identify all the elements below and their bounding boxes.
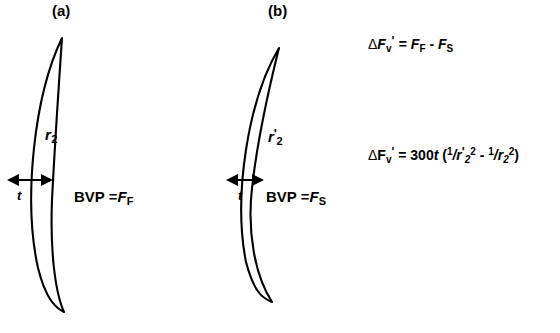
bvp-label-b: BVP =FS	[266, 188, 326, 207]
radius-symbol-a: r	[45, 126, 51, 143]
eq2-delta: Δ	[368, 147, 377, 163]
radius-symbol-b: r	[268, 128, 274, 145]
thickness-label-b: t	[238, 188, 242, 203]
bvp-text-a: BVP =	[74, 188, 118, 205]
panel-title-a: (a)	[52, 2, 70, 19]
panel-title-b: (b)	[268, 2, 287, 19]
radius-label-a: r2	[45, 126, 57, 145]
equation-delta-fv-definition: ΔFv' = FF - FS	[368, 34, 453, 54]
thickness-label-a: t	[17, 188, 21, 203]
bvp-subscript-a: F	[127, 195, 134, 207]
lens-outline-b	[241, 48, 279, 302]
eq1-delta: Δ	[368, 36, 377, 52]
lens-outline-a	[31, 38, 64, 312]
eq1-f: F	[377, 36, 386, 52]
radius-subscript-a: 2	[51, 133, 57, 145]
bvp-symbol-b: F	[310, 188, 319, 205]
figure-canvas: (a) (b) r2 t BVP =FF r'2 t BVP =FS ΔFv' …	[0, 0, 560, 333]
radius-subscript-b: 2	[276, 135, 282, 147]
eq2-coefficient: 300	[410, 147, 433, 163]
equation-delta-fv-formula: ΔFv' = 300t (1/r'22 - 1/r22)	[368, 145, 519, 165]
eq1-equals: =	[399, 36, 407, 52]
bvp-text-b: BVP =	[266, 188, 310, 205]
eq1-term2: F	[438, 36, 447, 52]
bvp-subscript-b: S	[319, 195, 326, 207]
thickness-arrow-a	[7, 174, 53, 186]
eq2-close-paren: )	[514, 147, 519, 163]
eq1-term2-sub: S	[447, 43, 454, 54]
thickness-arrow-b	[226, 174, 264, 186]
lens-diagram-svg	[0, 0, 560, 333]
eq2-f: F	[377, 147, 386, 163]
bvp-symbol-a: F	[118, 188, 127, 205]
radius-label-b: r'2	[268, 126, 283, 147]
lens-shape-b	[241, 48, 279, 302]
lens-shape-a	[31, 38, 64, 312]
bvp-label-a: BVP =FF	[74, 188, 133, 207]
